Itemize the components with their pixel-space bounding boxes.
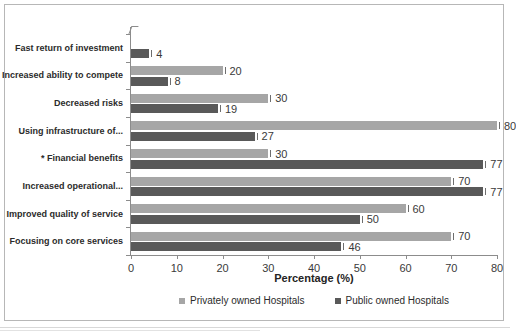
y-tick (126, 200, 131, 201)
bar-end-marker (408, 205, 409, 212)
bar-value-label: 30 (275, 148, 287, 160)
bar-a6a6a6 (131, 94, 268, 103)
category-label: * Financial benefits (41, 153, 123, 163)
bar-end-marker (485, 188, 486, 195)
x-tick (223, 255, 224, 259)
bar-value-label: 4 (156, 48, 162, 60)
bar-value-label: 80 (504, 120, 516, 132)
bar-end-marker (453, 178, 454, 185)
x-tick (406, 255, 407, 259)
category-label: Improved quality of service (6, 209, 123, 219)
category-label: Fast return of investment (15, 43, 123, 53)
bar-value-label: 77 (490, 158, 502, 170)
bar-595959 (131, 160, 483, 169)
bar-a6a6a6 (131, 121, 497, 130)
x-tick (268, 255, 269, 259)
bar-end-marker (499, 122, 500, 129)
legend-label: Public owned Hospitals (346, 295, 449, 306)
plot-area: 01020304050607080 4208301980273077707760… (131, 34, 497, 255)
bar-end-marker (362, 216, 363, 223)
x-tick (177, 255, 178, 259)
bar-end-marker (170, 78, 171, 85)
y-tick (126, 117, 131, 118)
bar-end-marker (343, 243, 344, 250)
y-tick (126, 34, 131, 35)
bar-value-label: 27 (262, 130, 274, 142)
bar-595959 (131, 242, 341, 251)
category-axis-labels: Fast return of investmentIncreased abili… (0, 34, 127, 255)
bar-595959 (131, 77, 168, 86)
bar-595959 (131, 132, 255, 141)
chart-legend: Privately owned HospitalsPublic owned Ho… (131, 295, 497, 306)
bar-value-label: 60 (413, 203, 425, 215)
legend-swatch-icon (179, 298, 185, 304)
bar-end-marker (225, 67, 226, 74)
legend-item[interactable]: Privately owned Hospitals (179, 295, 305, 306)
bar-value-label: 30 (275, 92, 287, 104)
bar-value-label: 8 (175, 75, 181, 87)
x-axis-title: Percentage (%) (131, 272, 497, 284)
bar-value-label: 70 (458, 230, 470, 242)
bar-end-marker (270, 150, 271, 157)
bar-value-label: 77 (490, 186, 502, 198)
category-label: Focusing on core services (9, 236, 123, 246)
category-label: Increased ability to compete (2, 70, 123, 80)
y-tick (126, 145, 131, 146)
bar-value-label: 19 (225, 103, 237, 115)
bar-end-marker (453, 233, 454, 240)
bar-value-label: 70 (458, 175, 470, 187)
x-tick (451, 255, 452, 259)
bar-595959 (131, 215, 360, 224)
category-label: Increased operational... (22, 181, 123, 191)
bar-end-marker (220, 105, 221, 112)
scan-artifact-line (0, 327, 510, 328)
legend-label: Privately owned Hospitals (190, 295, 305, 306)
x-tick (497, 255, 498, 259)
bar-end-marker (151, 50, 152, 57)
bar-end-marker (270, 95, 271, 102)
bar-a6a6a6 (131, 232, 451, 241)
bar-595959 (131, 49, 149, 58)
x-tick (131, 255, 132, 259)
y-tick (126, 255, 131, 256)
bar-a6a6a6 (131, 66, 223, 75)
bar-end-marker (485, 161, 486, 168)
bar-value-label: 50 (367, 213, 379, 225)
y-tick (126, 62, 131, 63)
legend-swatch-icon (335, 298, 341, 304)
x-tick (314, 255, 315, 259)
bar-value-label: 20 (230, 65, 242, 77)
bar-a6a6a6 (131, 177, 451, 186)
y-tick (126, 172, 131, 173)
category-label: Decreased risks (54, 98, 123, 108)
x-tick (360, 255, 361, 259)
bar-595959 (131, 187, 483, 196)
legend-item[interactable]: Public owned Hospitals (335, 295, 449, 306)
y-tick (126, 227, 131, 228)
bar-595959 (131, 104, 218, 113)
bar-a6a6a6 (131, 149, 268, 158)
scan-artifact-line-secondary (0, 330, 260, 331)
bar-value-label: 46 (348, 241, 360, 253)
y-tick (126, 89, 131, 90)
bar-a6a6a6 (131, 204, 406, 213)
category-label: Using infrastructure of... (18, 126, 123, 136)
bar-end-marker (257, 133, 258, 140)
